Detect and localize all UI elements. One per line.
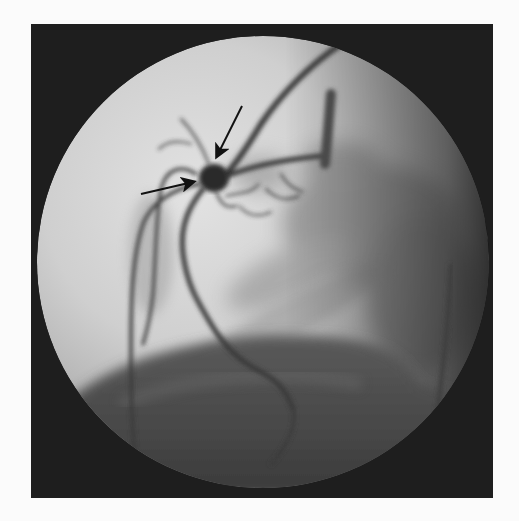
aneurysm xyxy=(199,164,229,192)
fluoroscopy-field xyxy=(31,24,493,498)
angiogram-frame: Circular fluoroscopic field showing cont… xyxy=(31,24,493,498)
angiogram-image xyxy=(31,24,493,498)
